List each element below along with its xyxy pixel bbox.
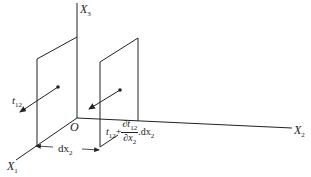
diagram-canvas [0, 0, 311, 177]
stress-element-diagram: X3 X2 X1 O t12 t12+∂t12∂x2.dx2 dx2 [0, 0, 311, 177]
dx2-spacing-label: dx2 [58, 143, 73, 157]
x1-axis-label: X1 [7, 160, 18, 175]
x3-axis-label: X3 [80, 3, 91, 18]
left-traction-arrow [20, 85, 60, 112]
right-traction-arrow [89, 88, 122, 109]
origin-label: O [70, 121, 79, 133]
right-traction-label: t12+∂t12∂x2.dx2 [106, 119, 154, 146]
partial-derivative-fraction: ∂t12∂x2 [121, 119, 138, 146]
left-traction-label: t12 [12, 95, 22, 109]
x2-axis-label: X2 [294, 124, 305, 139]
